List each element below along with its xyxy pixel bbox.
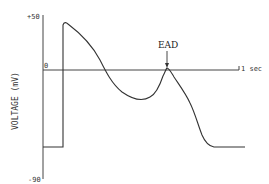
action-potential-chart: +50 0 -90 1 sec VOLTAGE (mV) EAD — [0, 0, 269, 184]
y-tick-bottom: -90 — [28, 176, 41, 184]
y-axis-title: VOLTAGE (mV) — [11, 72, 20, 130]
y-tick-zero: 0 — [44, 62, 48, 70]
x-end-label: 1 sec — [241, 65, 262, 73]
ead-arrow-head-icon — [165, 63, 169, 68]
ead-label: EAD — [158, 40, 178, 50]
action-potential-trace — [43, 23, 245, 147]
y-tick-top: +50 — [27, 13, 40, 21]
